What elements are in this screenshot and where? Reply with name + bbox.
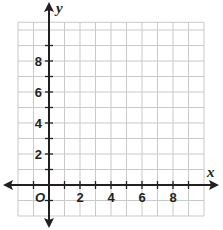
x-tick-label: 4	[107, 190, 115, 205]
x-tick-label: 6	[138, 190, 145, 205]
x-tick-label: 2	[76, 190, 83, 205]
x-tick-label: 8	[169, 190, 176, 205]
y-tick-label: 6	[35, 85, 42, 100]
x-axis-label: x	[206, 164, 215, 180]
coordinate-plane: 24682468 x y O	[0, 0, 223, 230]
origin-label: O	[35, 190, 45, 205]
y-axis-label: y	[54, 0, 63, 16]
y-tick-label: 8	[35, 54, 42, 69]
y-tick-label: 4	[35, 116, 43, 131]
y-tick-label: 2	[35, 147, 42, 162]
